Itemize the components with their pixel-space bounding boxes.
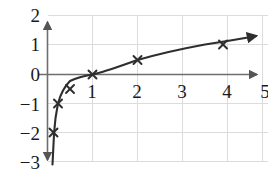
y-tick-label-neg3: −3: [2, 153, 40, 172]
y-tick-label-0: 0: [8, 65, 40, 84]
grid-lines: [48, 15, 268, 162]
x-tick-label-2: 2: [132, 82, 142, 101]
x-tick-label-4: 4: [222, 82, 232, 101]
x-tick-label-5: 5: [260, 82, 268, 101]
chart-figure: 2 1 0 −1 −2 −3 1 2 3 4 5: [0, 0, 268, 182]
y-tick-label-1: 1: [8, 35, 40, 54]
x-tick-label-3: 3: [177, 82, 187, 101]
x-tick-label-1: 1: [87, 82, 97, 101]
y-tick-label-neg2: −2: [2, 124, 40, 143]
horizontal-gridlines: [48, 16, 268, 162]
y-tick-label-neg1: −1: [2, 95, 40, 114]
y-tick-label-2: 2: [8, 6, 40, 25]
data-point-marker: [66, 85, 74, 93]
